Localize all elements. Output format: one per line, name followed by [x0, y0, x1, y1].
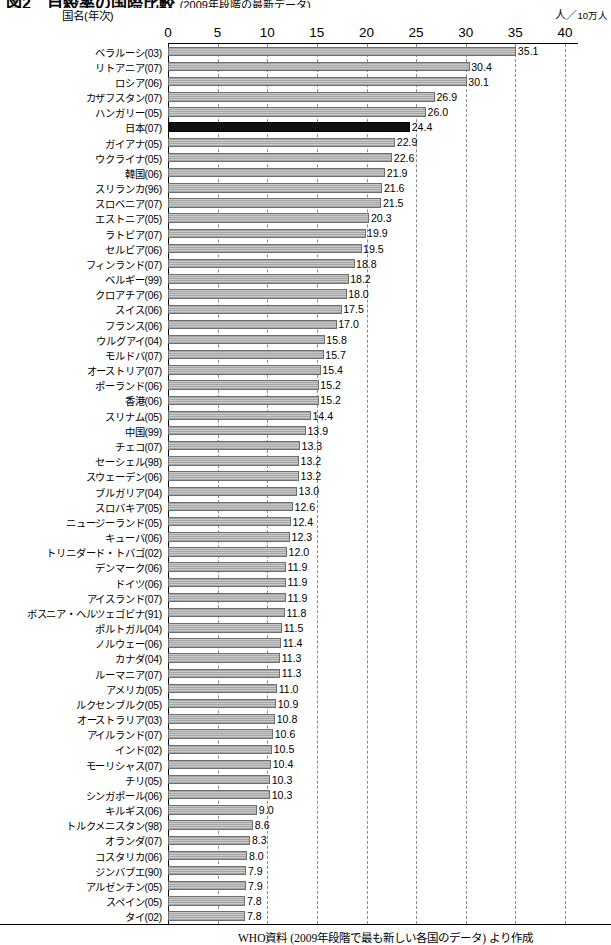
bar-row: トリニダード・トバゴ(02)12.0 [0, 545, 611, 560]
x-tick-label: 30 [458, 25, 473, 40]
bar-category-label: トリニダード・トバゴ(02) [46, 545, 162, 560]
bar-row: 中国(99)13.9 [0, 423, 611, 438]
bar-value-label: 12.6 [295, 501, 316, 513]
bar-value-label: 9.0 [259, 804, 274, 816]
bar-category-label: ルーマニア(07) [95, 667, 162, 682]
bar-category-label: オランダ(07) [105, 833, 162, 848]
bar-value-label: 12.4 [293, 516, 314, 528]
bar-category-label: モーリシャス(07) [86, 758, 162, 773]
bar [168, 380, 319, 389]
bar-row: モルドバ(07)15.7 [0, 347, 611, 362]
bar-value-label: 21.9 [387, 167, 408, 179]
bar-category-label: キューバ(06) [105, 530, 162, 545]
bar-value-label: 30.1 [468, 76, 489, 88]
bar-category-label: スウェーデン(06) [86, 469, 162, 484]
bar [168, 107, 426, 116]
bar [168, 47, 516, 56]
bar-category-label: オーストラリア(03) [77, 712, 162, 727]
bar-row: ロシア(06)30.1 [0, 74, 611, 89]
bar [168, 608, 285, 617]
bar-category-label: ジンバブエ(90) [95, 864, 162, 879]
bar [168, 881, 246, 890]
bar-row: シンガポール(06)10.3 [0, 787, 611, 802]
x-tick-label: 10 [260, 25, 275, 40]
bar-value-label: 18.8 [356, 258, 377, 270]
bar-value-label: 12.0 [289, 546, 310, 558]
bar-value-label: 10.9 [278, 698, 299, 710]
bar-category-label: セルビア(06) [105, 242, 162, 257]
bar-row: スペイン(05)7.8 [0, 894, 611, 909]
source-note: WHO資料 (2009年段階で最も新しい各国のデータ) より作成 [238, 929, 533, 945]
bar-row: ポルトガル(04)11.5 [0, 621, 611, 636]
bar-category-label: ドイツ(06) [115, 576, 162, 591]
bar-row: スウェーデン(06)13.2 [0, 469, 611, 484]
bar-category-label: キルギス(06) [105, 803, 162, 818]
bar-row: ニュージーランド(05)12.4 [0, 514, 611, 529]
bar-value-label: 21.6 [384, 182, 405, 194]
bar [168, 729, 273, 738]
bar-category-label: ウクライナ(05) [95, 151, 162, 166]
bar [168, 62, 470, 71]
bar-value-label: 15.7 [325, 349, 346, 361]
bar-value-label: 13.0 [299, 485, 320, 497]
bar [168, 229, 366, 238]
bar-category-label: 韓国(06) [125, 166, 162, 181]
bar-row: 香港(06)15.2 [0, 393, 611, 408]
bar [168, 775, 270, 784]
bar-row: スロベニア(07)21.5 [0, 196, 611, 211]
bar-category-label: ポルトガル(04) [95, 621, 162, 636]
bar-row: キルギス(06)9.0 [0, 803, 611, 818]
bar-value-label: 15.8 [326, 334, 347, 346]
bar-row: ハンガリー(05)26.0 [0, 105, 611, 120]
bar-value-label: 10.8 [277, 713, 298, 725]
bar-category-label: ブルガリア(04) [95, 485, 162, 500]
bar-category-label: オーストリア(07) [87, 363, 162, 378]
bar [168, 805, 257, 814]
bar-row: チリ(05)10.3 [0, 772, 611, 787]
bar-row: スリナム(05)14.4 [0, 408, 611, 423]
bar-value-label: 13.3 [302, 440, 323, 452]
bar-value-label: 24.4 [412, 121, 433, 133]
bar-category-label: アルゼンチン(05) [86, 879, 162, 894]
chart-bottom-rule [0, 924, 611, 925]
bar-row: ポーランド(06)15.2 [0, 378, 611, 393]
bar-value-label: 7.9 [248, 865, 263, 877]
bar-value-label: 8.0 [249, 850, 264, 862]
bar-category-label: スロバキア(05) [95, 500, 162, 515]
bar-row: ガイアナ(05)22.9 [0, 135, 611, 150]
bar-row: 日本(07)24.4 [0, 120, 611, 135]
bar-category-label: ラトビア(07) [105, 227, 162, 242]
bar [168, 820, 253, 829]
bar-category-label: スリランカ(96) [95, 181, 162, 196]
bar [168, 669, 280, 678]
bar-value-label: 7.8 [247, 910, 262, 922]
bar [168, 487, 297, 496]
bar [168, 760, 271, 769]
bar [168, 426, 306, 435]
bar [168, 471, 299, 480]
bar-value-label: 11.5 [284, 622, 304, 634]
bar [168, 745, 272, 754]
bar-category-label: フィンランド(07) [86, 257, 162, 272]
bar [168, 411, 311, 420]
bar-row: スロバキア(05)12.6 [0, 499, 611, 514]
bar-row: スイス(06)17.5 [0, 302, 611, 317]
bar [168, 790, 270, 799]
bar-category-label: アイスランド(07) [87, 591, 162, 606]
bar-row: ベルギー(99)18.2 [0, 272, 611, 287]
bar [168, 259, 355, 268]
bar-value-label: 13.2 [301, 470, 322, 482]
bar [168, 547, 287, 556]
bar [168, 517, 291, 526]
bar-value-label: 13.9 [307, 425, 328, 437]
bar-category-label: ハンガリー(05) [95, 105, 162, 120]
bar [168, 213, 369, 222]
bar-value-label: 11.9 [288, 576, 308, 588]
bar-value-label: 11.9 [288, 592, 308, 604]
bar-row: チェコ(07)13.3 [0, 438, 611, 453]
bar-row: ウルグアイ(04)15.8 [0, 332, 611, 347]
bar-value-label: 7.9 [248, 880, 263, 892]
bar-value-label: 11.3 [282, 652, 302, 664]
bar-category-label: エストニア(05) [95, 211, 162, 226]
bar-category-label: アイルランド(07) [87, 727, 162, 742]
